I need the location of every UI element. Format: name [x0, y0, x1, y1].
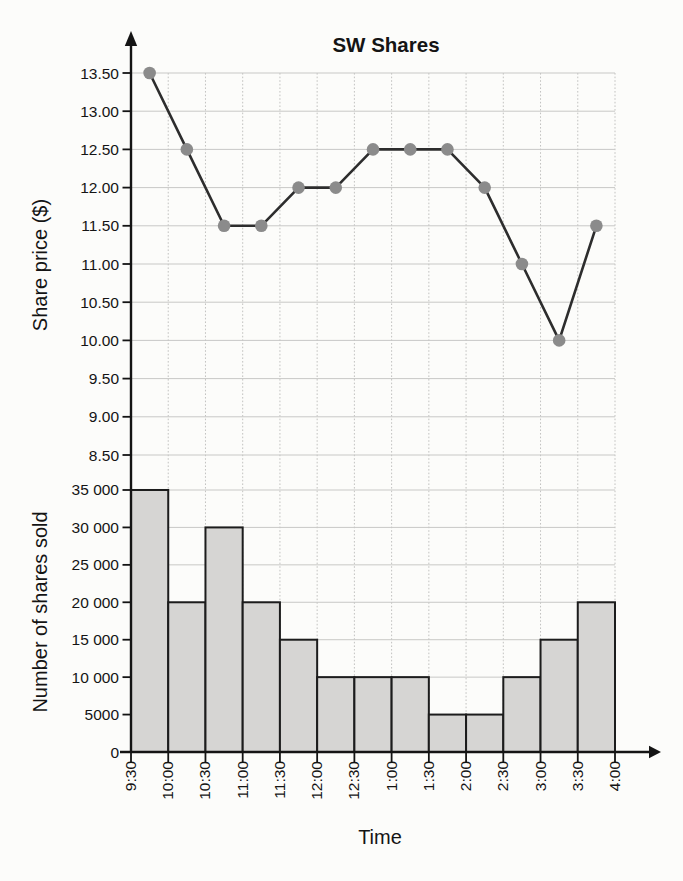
price-tick-label: 10.50 [80, 294, 119, 311]
price-tick-label: 9.50 [89, 370, 120, 387]
time-tick-label: 1:00 [383, 761, 400, 792]
bar-shares-sold [317, 677, 354, 752]
time-tick-label: 12:00 [308, 761, 325, 800]
price-axis-title: Share price ($) [29, 199, 51, 331]
price-tick-label: 12.50 [80, 141, 119, 158]
chart-title: SW Shares [332, 33, 439, 56]
price-tick-label: 13.00 [80, 103, 119, 120]
shares-tick-label: 30 000 [72, 519, 120, 536]
price-data-point [367, 143, 380, 156]
y-axis-arrow [125, 31, 137, 46]
price-data-point [590, 220, 603, 233]
time-tick-label: 2:00 [457, 761, 474, 792]
price-data-point [553, 334, 566, 347]
bar-shares-sold [392, 677, 429, 752]
price-data-point [143, 67, 156, 80]
shares-axis-title: Number of shares sold [29, 511, 51, 712]
price-tick-label: 9.00 [89, 408, 120, 425]
bar-shares-sold [429, 715, 466, 752]
bar-shares-sold [541, 640, 578, 752]
time-tick-label: 10:00 [159, 761, 176, 800]
price-data-point [441, 143, 454, 156]
time-tick-label: 11:30 [271, 761, 288, 799]
time-tick-label: 3:30 [569, 761, 586, 792]
price-data-point [218, 220, 231, 233]
time-tick-label: 12:30 [345, 761, 362, 800]
time-tick-label: 9:30 [122, 761, 139, 792]
bar-shares-sold [503, 677, 540, 752]
bar-shares-sold [168, 602, 205, 752]
time-tick-label: 3:00 [532, 761, 549, 792]
price-tick-label: 8.50 [89, 447, 120, 464]
time-tick-label: 10:30 [196, 761, 213, 800]
shares-tick-label: 35 000 [72, 481, 120, 498]
time-tick-label: 11:00 [234, 761, 251, 799]
bar-shares-sold [466, 715, 503, 752]
shares-sold-bars [131, 490, 615, 752]
bar-shares-sold [131, 490, 168, 752]
price-tick-label: 11.00 [81, 256, 119, 273]
x-axis-arrow [649, 746, 661, 758]
shares-tick-label: 25 000 [72, 556, 120, 573]
price-data-point [329, 181, 342, 194]
time-tick-label: 1:30 [420, 761, 437, 792]
time-tick-label: 4:00 [606, 761, 623, 792]
bar-shares-sold [205, 527, 242, 752]
shares-tick-label: 10 000 [72, 669, 120, 686]
shares-tick-label: 5000 [85, 706, 120, 723]
shares-tick-label: 15 000 [72, 631, 120, 648]
price-tick-label: 11.50 [81, 217, 119, 234]
price-tick-label: 13.50 [80, 65, 119, 82]
bar-shares-sold [578, 602, 615, 752]
price-data-point [478, 181, 491, 194]
bar-shares-sold [243, 602, 280, 752]
chart-page: 13.5013.0012.5012.0011.5011.0010.5010.00… [0, 0, 683, 881]
time-axis-title: Time [358, 826, 402, 848]
share-price-line [143, 67, 602, 347]
price-data-point [181, 143, 194, 156]
time-tick-label: 2:30 [494, 761, 511, 792]
price-data-point [516, 258, 529, 271]
shares-tick-label: 20 000 [72, 594, 120, 611]
price-data-point [255, 220, 268, 233]
price-data-point [292, 181, 305, 194]
price-tick-label: 10.00 [80, 332, 119, 349]
price-tick-label: 12.00 [80, 179, 119, 196]
price-data-point [404, 143, 417, 156]
bar-shares-sold [280, 640, 317, 752]
price-line-path [150, 73, 597, 340]
sw-shares-chart: 13.5013.0012.5012.0011.5011.0010.5010.00… [0, 0, 683, 881]
shares-tick-label: 0 [110, 744, 119, 761]
bar-shares-sold [354, 677, 391, 752]
